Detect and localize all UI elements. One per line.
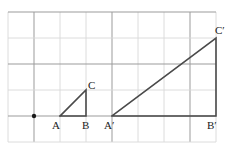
vertex-label-b: B — [82, 120, 89, 131]
center-of-dilation-dot — [32, 114, 36, 118]
vertex-label-a-prime: A′ — [104, 120, 114, 131]
figure-canvas — [0, 0, 245, 158]
vertex-label-c-prime: C′ — [215, 25, 225, 36]
vertex-label-c: C — [88, 80, 95, 91]
dilation-figure: A B C A′ B′ C′ — [0, 0, 245, 158]
vertex-label-a: A — [52, 120, 60, 131]
triangle-abc-outline — [60, 90, 86, 116]
vertex-label-b-prime: B′ — [207, 120, 217, 131]
